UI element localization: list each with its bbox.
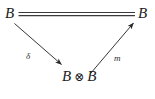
edge-label-delta: δ [26,52,30,61]
edge-label-m: m [114,54,121,63]
commutative-diagram: B B B ⊗ B δ m [0,0,155,99]
identity-double-line [19,12,136,15]
node-tensor-product: B ⊗ B [62,69,96,84]
node-top-right-B: B [138,6,147,21]
comultiplication-arrow [15,24,62,65]
tensor-right-factor: B [87,69,96,84]
diagram-edges [0,0,155,99]
tensor-product-icon: ⊗ [74,71,84,83]
tensor-left-factor: B [62,69,71,84]
multiplication-arrow [91,23,134,74]
node-top-left-B: B [5,6,14,21]
